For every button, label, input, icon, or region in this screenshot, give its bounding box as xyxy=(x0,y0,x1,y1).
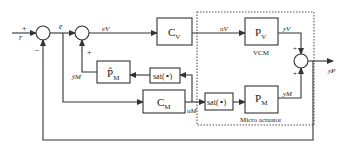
signal-uv: uV xyxy=(220,25,229,33)
summing-junction-3 xyxy=(294,54,308,68)
sign-sum3-bottom: + xyxy=(293,70,297,78)
vcm-label: VCM xyxy=(253,49,270,57)
signal-ym-hat: ŷM xyxy=(71,73,82,81)
sign-sum3-top: + xyxy=(293,45,297,53)
signal-e: e xyxy=(59,22,63,31)
sign-sum1-r: + xyxy=(22,24,27,33)
sat-bottom-label: sat(∘) xyxy=(207,98,227,107)
signal-r: r xyxy=(19,33,23,42)
block-diagram: CV PV P̂M sat(∘) CM sat(∘) PM VCM Micro … xyxy=(0,0,345,157)
sign-sum2-in: + xyxy=(87,48,92,57)
summing-junction-1 xyxy=(36,26,50,40)
sign-sum1-fb: − xyxy=(34,45,39,55)
summing-junction-2 xyxy=(75,26,89,40)
signal-ev: eV xyxy=(102,25,110,33)
signal-um: uM xyxy=(187,107,198,115)
sat-top-label: sat(∘) xyxy=(153,72,173,81)
micro-actuator-label: Micro actuator xyxy=(240,116,282,124)
signal-yv: yV xyxy=(282,25,291,33)
signal-yp: yP xyxy=(327,67,336,75)
signal-ym: yM xyxy=(282,90,293,98)
